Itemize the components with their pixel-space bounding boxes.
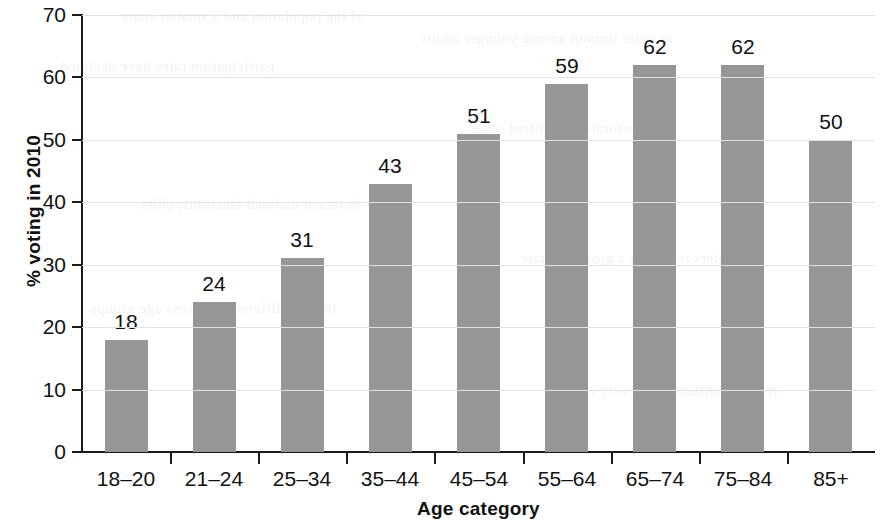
x-axis-title: Age category — [82, 498, 875, 520]
bar — [633, 65, 676, 452]
bar-value-label: 31 — [262, 229, 342, 250]
ghost-text-line: participation rates have declined — [60, 58, 274, 75]
bar — [105, 340, 148, 452]
bar — [193, 302, 236, 452]
bar-value-label: 51 — [439, 105, 519, 126]
gridline — [82, 202, 875, 203]
gridline — [82, 15, 875, 16]
bar — [809, 140, 852, 452]
bar-value-label: 50 — [791, 111, 871, 132]
ghost-text-line: in recent national elections, older — [140, 196, 361, 213]
x-axis-tick — [346, 453, 348, 464]
bar-value-label: 59 — [527, 55, 607, 76]
bar — [369, 184, 412, 452]
bar — [281, 258, 324, 452]
gridline — [82, 77, 875, 78]
x-axis-tick — [611, 453, 613, 464]
ghost-text-line: of the population and a smaller share — [120, 8, 364, 25]
y-axis-tick-label: 20 — [0, 316, 66, 337]
y-axis-tick-label: 10 — [0, 379, 66, 400]
x-axis-tick — [787, 453, 789, 464]
bar-value-label: 24 — [174, 273, 254, 294]
y-axis-tick-label: 70 — [0, 4, 66, 25]
gridline — [82, 390, 875, 391]
x-axis-tick — [699, 453, 701, 464]
x-axis-tick — [523, 453, 525, 464]
bar-value-label: 18 — [86, 311, 166, 332]
x-axis-tick — [258, 453, 260, 464]
y-axis-tick-label: 0 — [0, 441, 66, 462]
y-axis-tick-label: 30 — [0, 254, 66, 275]
y-axis-tick-label: 60 — [0, 66, 66, 87]
bar-chart: of the population and a smaller share in… — [0, 0, 882, 528]
bar-value-label: 43 — [350, 155, 430, 176]
y-axis-tick-label: 40 — [0, 191, 66, 212]
x-axis-tick-label: 85+ — [776, 468, 882, 489]
bar-value-label: 62 — [615, 36, 695, 57]
gridline — [82, 265, 875, 266]
bar — [721, 65, 764, 452]
y-axis-tick-label: 50 — [0, 129, 66, 150]
gridline — [82, 140, 875, 141]
x-axis-tick — [434, 453, 436, 464]
bar-value-label: 62 — [703, 36, 783, 57]
bar — [457, 134, 500, 452]
gridline — [82, 327, 875, 328]
y-axis-line — [81, 15, 83, 453]
x-axis-tick — [170, 453, 172, 464]
